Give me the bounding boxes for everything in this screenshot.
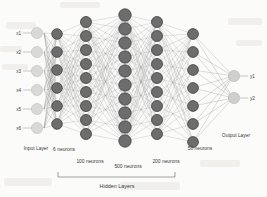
output-label-y2: y2	[250, 96, 255, 101]
hidden-node	[119, 135, 131, 147]
hidden-node	[81, 59, 92, 70]
hidden-node	[188, 65, 199, 76]
output-node-labels: y1 y2	[250, 74, 255, 101]
hidden-node	[52, 65, 63, 76]
output-node	[228, 92, 239, 103]
hidden-node	[52, 83, 63, 94]
output-layer-caption: Output Layer	[222, 133, 251, 138]
hidden-layer-3-caption: 500 neurons	[114, 164, 142, 169]
hidden-node	[152, 73, 163, 84]
hidden-layers-bracket	[58, 172, 175, 177]
input-node	[31, 84, 42, 95]
input-node	[31, 65, 42, 76]
output-node	[228, 70, 239, 81]
hidden-node	[119, 93, 131, 105]
hidden-node	[188, 83, 199, 94]
hidden-layer-2-nodes	[81, 17, 92, 140]
input-label-x4: x4	[16, 88, 21, 93]
hidden-node	[81, 17, 92, 28]
network-canvas: x1 x2 x3 x4 x5 x6 y1 y2 Input Layer 6 ne…	[0, 0, 267, 197]
hidden-node	[81, 101, 92, 112]
hidden-node	[81, 31, 92, 42]
hidden-node	[119, 9, 131, 21]
edges-h5-to-output	[193, 34, 233, 142]
hidden-node	[152, 17, 163, 28]
hidden-layer-1-caption: 6 neurons	[53, 147, 75, 152]
input-node	[31, 46, 42, 57]
hidden-node	[152, 59, 163, 70]
hidden-node	[52, 47, 63, 58]
input-label-x5: x5	[16, 107, 21, 112]
hidden-node	[52, 119, 63, 130]
hidden-node	[119, 37, 131, 49]
hidden-node	[81, 87, 92, 98]
input-node	[31, 122, 42, 133]
hidden-node	[119, 23, 131, 35]
hidden-node	[81, 45, 92, 56]
hidden-node	[152, 31, 163, 42]
input-label-x1: x1	[16, 31, 21, 36]
hidden-node	[188, 29, 199, 40]
hidden-node	[119, 65, 131, 77]
hidden-layer-4-caption: 200 neurons	[152, 159, 180, 164]
hidden-node	[52, 101, 63, 112]
hidden-layer-4-nodes	[152, 17, 163, 140]
input-node	[31, 103, 42, 114]
output-layer-nodes	[228, 70, 239, 103]
hidden-node	[119, 51, 131, 63]
hidden-node	[81, 129, 92, 140]
hidden-node	[152, 87, 163, 98]
hidden-node	[52, 29, 63, 40]
hidden-node	[152, 45, 163, 56]
hidden-node	[188, 119, 199, 130]
hidden-node	[152, 115, 163, 126]
input-label-x2: x2	[16, 50, 21, 55]
hidden-node	[188, 101, 199, 112]
output-label-y1: y1	[250, 74, 255, 79]
output-stubs	[240, 76, 248, 98]
hidden-layer-2-caption: 100 neurons	[76, 159, 104, 164]
hidden-node	[152, 129, 163, 140]
hidden-node	[119, 121, 131, 133]
input-layer-nodes	[31, 27, 42, 133]
hidden-node	[152, 101, 163, 112]
hidden-node	[81, 115, 92, 126]
hidden-node	[81, 73, 92, 84]
hidden-node	[119, 79, 131, 91]
hidden-layer-5-caption: 50 neurons	[188, 146, 213, 151]
input-stubs	[23, 33, 32, 128]
input-layer-caption: Input Layer	[24, 146, 49, 151]
hidden-node	[119, 107, 131, 119]
neural-network-diagram: x1 x2 x3 x4 x5 x6 y1 y2 Input Layer 6 ne…	[0, 0, 267, 197]
input-label-x3: x3	[16, 69, 21, 74]
input-node	[31, 27, 42, 38]
hidden-layers-group-label: Hidden Layers	[100, 183, 135, 189]
hidden-node	[188, 47, 199, 58]
input-label-x6: x6	[16, 126, 21, 131]
input-node-labels: x1 x2 x3 x4 x5 x6	[16, 31, 21, 131]
